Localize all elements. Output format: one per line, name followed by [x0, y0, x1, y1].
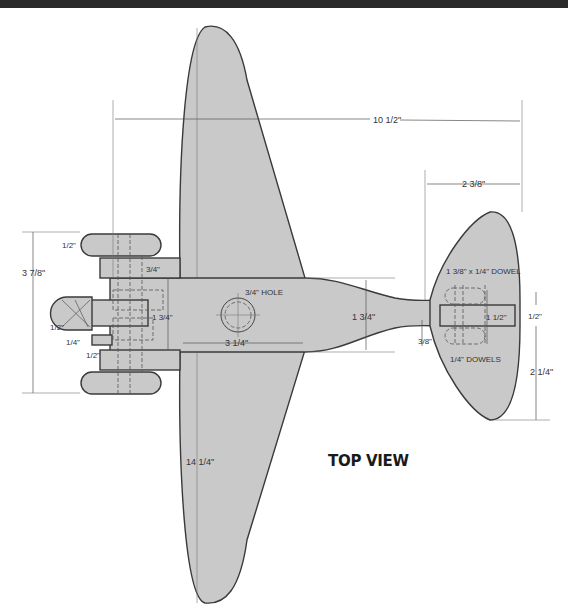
- dim-tail-span: 2 3/8": [462, 179, 485, 189]
- dim-fuselage-mid: 1 3/4": [352, 312, 375, 322]
- dim-gear-offset: 3/4": [146, 265, 160, 274]
- dim-wheel-width: 1/2": [62, 241, 76, 250]
- gear-block-bottom: [100, 350, 180, 370]
- dim-axle-gap-1: 1/2": [50, 323, 64, 332]
- dim-overall-length: 10 1/2": [373, 115, 401, 125]
- dim-wingspan: 14 1/4": [186, 457, 214, 467]
- dim-gear-width: 3 7/8": [22, 268, 45, 278]
- dim-axle-gap-2: 1/4": [66, 338, 80, 347]
- wheel-top: [81, 234, 161, 256]
- dim-stab-offset: 3/8": [418, 337, 432, 346]
- dim-wing-chord: 3 1/4": [225, 338, 248, 348]
- callout-dowel-main: 1 3/8" x 1/4" DOWEL: [446, 267, 521, 276]
- dim-fuselage-front: 1 3/4": [152, 313, 173, 322]
- label-hole: 3/4" HOLE: [245, 288, 283, 297]
- callout-dowels: 1/4" DOWELS: [450, 355, 501, 364]
- dim-tail-slot: 1/2": [528, 312, 542, 321]
- drawing-title: TOP VIEW: [328, 452, 409, 470]
- gear-block-top: [100, 258, 180, 278]
- wheel-bottom: [81, 372, 161, 394]
- airplane-top-view-drawing: 10 1/2" 2 3/8" 3 7/8" 1/2" 3/4" 1 3/4" 3…: [0, 0, 568, 615]
- axle-spacer: [92, 335, 112, 345]
- dim-tail-half-span: 2 1/4": [530, 367, 553, 377]
- dim-axle-gap-3: 1/2": [86, 351, 100, 360]
- dim-tail-block: 1 1/2": [486, 313, 507, 322]
